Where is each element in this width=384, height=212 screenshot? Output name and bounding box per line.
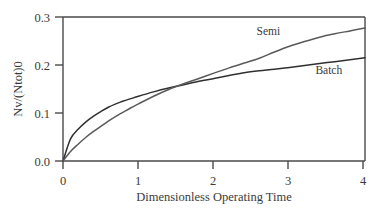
series-group [63, 28, 365, 161]
x-tick-label-4: 4 [360, 174, 367, 188]
x-tick-label-2: 2 [210, 174, 216, 188]
series-line-semi [63, 28, 365, 161]
y-axis-title: Nv/(Ntot)0 [11, 61, 25, 117]
series-label-semi: Semi [257, 25, 281, 37]
x-tick-label-1: 1 [135, 174, 141, 188]
series-label-batch: Batch [315, 64, 342, 76]
y-tick-label-3: 0.3 [34, 11, 50, 25]
y-tick-label-2: 0.2 [34, 59, 50, 73]
x-axis-ticks [63, 161, 363, 169]
line-chart: 0.3 0.2 0.1 0.0 0 1 2 3 4 Dimensionless … [0, 0, 384, 212]
x-tick-label-0: 0 [60, 174, 66, 188]
x-tick-label-3: 3 [285, 174, 291, 188]
y-axis-ticks [55, 17, 63, 161]
x-axis-title: Dimensionless Operating Time [136, 190, 292, 204]
y-tick-label-1: 0.1 [34, 107, 50, 121]
chart-figure: 0.3 0.2 0.1 0.0 0 1 2 3 4 Dimensionless … [0, 0, 384, 212]
y-tick-label-0: 0.0 [34, 155, 50, 169]
axis-frame [63, 17, 365, 161]
